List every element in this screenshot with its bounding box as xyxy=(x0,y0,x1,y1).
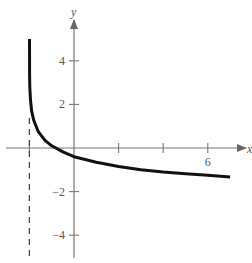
plot-area: 42−2−46 x y xyxy=(0,0,252,263)
axes xyxy=(6,20,246,258)
y-tick-label: −4 xyxy=(52,228,65,242)
y-tick-label: 2 xyxy=(59,97,65,111)
x-tick-label: 6 xyxy=(205,155,211,169)
x-axis-label: x xyxy=(246,142,252,156)
y-axis-label: y xyxy=(70,5,77,19)
chart: 42−2−46 x y xyxy=(0,0,252,263)
y-tick-label: 4 xyxy=(59,54,65,68)
y-tick-label: −2 xyxy=(52,185,65,199)
